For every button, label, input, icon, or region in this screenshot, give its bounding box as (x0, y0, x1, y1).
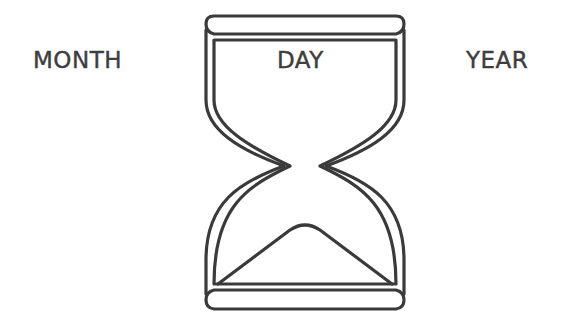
year-label: YEAR (466, 47, 528, 73)
month-label: MONTH (33, 47, 122, 73)
day-label: DAY (277, 47, 324, 73)
